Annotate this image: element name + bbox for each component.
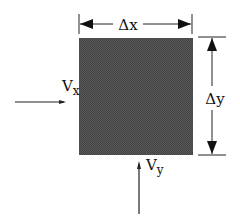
dy-label: Δy: [205, 90, 225, 108]
arrow-up-icon: [137, 161, 141, 169]
vx-flow: Vx: [15, 77, 80, 104]
arrow-right-icon: [59, 100, 66, 104]
arrow-up-icon: [207, 38, 217, 51]
dx-label: Δx: [118, 16, 138, 34]
dy-dimension: Δy: [198, 37, 226, 155]
arrow-right-icon: [178, 19, 191, 29]
control-volume-diagram: Δx Δy Vx Vy: [0, 0, 240, 223]
arrow-down-icon: [207, 141, 217, 154]
control-volume-square: [79, 38, 193, 155]
vy-flow: Vy: [137, 156, 164, 214]
dx-dimension: Δx: [79, 14, 192, 34]
arrow-left-icon: [80, 19, 93, 29]
vx-label: Vx: [61, 77, 80, 98]
vy-label: Vy: [145, 156, 164, 177]
